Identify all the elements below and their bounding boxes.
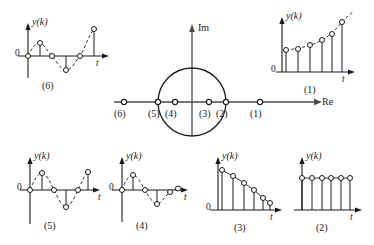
- plot-6-t-arrow: [102, 53, 109, 58]
- plot-6-sample: [38, 41, 43, 46]
- plot-4-caption: (4): [136, 220, 148, 231]
- pole-5-marker: [155, 99, 160, 104]
- real-axis-arrow: [314, 99, 322, 105]
- imaginary-axis-arrow: [189, 24, 195, 32]
- plot-2-t-label: t: [350, 212, 353, 222]
- plot-6-caption: (6): [42, 80, 54, 91]
- pole-4-marker: [172, 99, 177, 104]
- plot-3-zero-label: 0: [206, 202, 211, 212]
- plot-4-sample: [168, 190, 173, 195]
- pole-3-marker: [206, 99, 211, 104]
- plot-2-sample: [310, 176, 315, 181]
- pole-1-marker: [257, 99, 262, 104]
- plot-3-y-arrow: [215, 157, 220, 164]
- plot-3-t-label: t: [270, 212, 273, 222]
- plot-2-caption: (2): [316, 222, 328, 233]
- plot-1-sample: [340, 20, 345, 25]
- plot-6-t-label: t: [96, 58, 99, 68]
- plot-5-y-label: y(k): [34, 150, 50, 161]
- plot-3-sample: [231, 174, 236, 179]
- plot-2-svg: [286, 152, 374, 232]
- plot-3-svg: [200, 152, 296, 232]
- pole-1-label: (1): [250, 108, 262, 119]
- plot-1-t-arrow: [348, 69, 355, 74]
- plot-4-sample: [120, 188, 125, 193]
- pole-4-label: (4): [165, 108, 177, 119]
- plot-5-panel: y(k) t 0 (5): [12, 152, 112, 232]
- zplane-panel: Im Re (6) (5) (4) (3) (2) (1): [110, 18, 340, 138]
- plot-3-panel: y(k) t 0 (3): [200, 152, 296, 232]
- plot-4-y-arrow: [119, 157, 124, 164]
- plot-2-sample: [300, 176, 305, 181]
- plot-4-sample: [131, 173, 136, 178]
- plot-5-sample: [28, 188, 33, 193]
- plot-6-sample: [26, 54, 31, 59]
- real-axis-label: Re: [322, 96, 333, 107]
- plot-1-t-label: t: [342, 74, 345, 84]
- plot-3-sample: [261, 196, 266, 201]
- plot-2-t-arrow: [355, 207, 362, 212]
- pole-3-label: (3): [199, 108, 211, 119]
- plot-2-panel: y(k) t (2): [286, 152, 374, 232]
- plot-5-sample: [40, 171, 45, 176]
- plot-6-sample: [92, 27, 97, 32]
- plot-3-sample: [252, 188, 257, 193]
- imaginary-axis-label: Im: [198, 22, 209, 33]
- plot-4-svg: [104, 152, 202, 232]
- pole-5-label: (5): [148, 108, 160, 119]
- plot-6-sample: [64, 68, 69, 73]
- plot-5-sample: [76, 188, 81, 193]
- plot-4-panel: y(k) t 0 (4): [104, 152, 202, 232]
- zplane-svg: [110, 18, 340, 138]
- plot-3-sample: [268, 201, 273, 206]
- plot-6-svg: [8, 18, 120, 90]
- plot-4-y-label: y(k): [126, 150, 142, 161]
- pole-6-marker: [121, 99, 126, 104]
- plot-5-t-label: t: [98, 192, 101, 202]
- plot-2-sample: [320, 176, 325, 181]
- plot-6-panel: y(k) t 0 (6): [8, 18, 120, 90]
- plot-3-y-label: y(k): [222, 150, 238, 161]
- pole-2-marker: [223, 99, 228, 104]
- plot-6-sample: [50, 54, 55, 59]
- plot-6-zero-label: 0: [15, 48, 20, 58]
- plot-5-svg: [12, 152, 112, 232]
- plot-3-sample: [220, 168, 225, 173]
- plot-4-sample: [176, 186, 181, 191]
- plot-6-sample: [78, 54, 83, 59]
- plot-6-y-arrow: [25, 23, 30, 30]
- plot-5-y-arrow: [27, 157, 32, 164]
- plot-2-sample: [339, 176, 344, 181]
- plot-3-sample: [242, 181, 247, 186]
- plot-2-sample: [329, 176, 334, 181]
- plot-4-zero-label: 0: [109, 182, 114, 192]
- pole-6-label: (6): [114, 108, 126, 119]
- plot-3-caption: (3): [234, 222, 246, 233]
- plot-5-caption: (5): [44, 220, 56, 231]
- plot-4-sample: [155, 202, 160, 207]
- pole-2-label: (2): [216, 108, 228, 119]
- plot-3-t-arrow: [275, 207, 282, 212]
- plot-6-y-label: y(k): [32, 16, 48, 27]
- plot-2-sample: [348, 176, 353, 181]
- plot-2-y-arrow: [299, 157, 304, 164]
- plot-2-y-label: y(k): [306, 150, 322, 161]
- plot-5-sample: [52, 188, 57, 193]
- plot-4-sample: [143, 188, 148, 193]
- plot-5-sample: [86, 170, 91, 175]
- plot-5-sample: [64, 205, 69, 210]
- plot-6-envelope: [28, 29, 94, 70]
- plot-5-zero-label: 0: [17, 182, 22, 192]
- plot-4-t-label: t: [184, 192, 187, 202]
